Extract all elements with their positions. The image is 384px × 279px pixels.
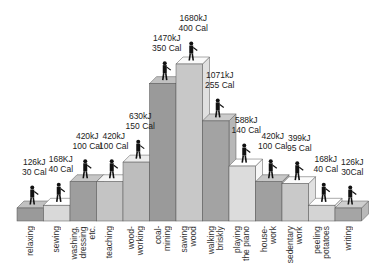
energy-expenditure-chart: 126kJ30 Calrelaxing168KJ40 Calsewing420k… [0, 0, 384, 279]
category-label: sewing [52, 226, 61, 252]
category-label: writing [344, 226, 353, 251]
value-label: 420kJ100 Cal [96, 131, 132, 151]
value-label: 126kJ30Cal [334, 157, 370, 177]
category-label: sedentary work [286, 226, 304, 263]
value-label: 1680kJ400 Cal [175, 13, 211, 33]
bar-writing [335, 186, 369, 222]
category-label: walking briskly [207, 226, 225, 254]
value-label: 630kJ150 Cal [122, 111, 158, 131]
category-label: washing, dressing etc. [70, 226, 97, 260]
value-label: 168KJ40 Cal [43, 154, 79, 174]
category-label: wood- working [127, 226, 145, 255]
category-label: peeling potatoes [313, 226, 331, 259]
category-label: relaxing [26, 226, 35, 256]
category-label: teaching [105, 226, 114, 258]
value-label: 399kJ95 Cal [281, 133, 317, 153]
category-label: playing the piano [233, 226, 251, 261]
category-label: house- work [260, 226, 278, 252]
value-label: 1470kJ350 Cal [149, 33, 185, 53]
category-label: sawing wood [180, 226, 198, 252]
category-label: coal- mining [154, 226, 172, 251]
value-label: 1071kJ255 Cal [202, 70, 238, 90]
